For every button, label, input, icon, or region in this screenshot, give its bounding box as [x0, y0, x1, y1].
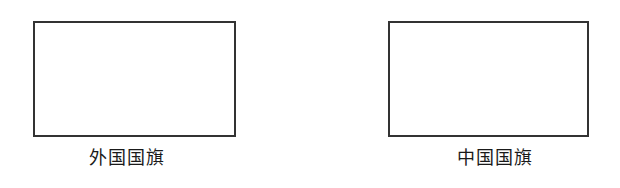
- chinese-flag-frame: [388, 21, 589, 137]
- chinese-flag-figure: 中国国旗: [0, 0, 620, 188]
- chinese-flag-caption: 中国国旗: [395, 147, 595, 169]
